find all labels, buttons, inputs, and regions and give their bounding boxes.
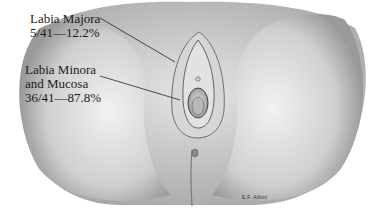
label-labia-minora-stat: 36/41—87.8%	[25, 91, 101, 105]
anus	[192, 149, 198, 157]
label-labia-minora-name-line2: and Mucosa	[25, 77, 101, 91]
anatomical-figure: Labia Majora 5/41—12.2% Labia Minora and…	[0, 0, 374, 208]
label-labia-majora-stat: 5/41—12.2%	[30, 26, 100, 40]
artist-signature: E.F. Albini	[242, 194, 267, 200]
label-labia-minora-name-line1: Labia Minora	[25, 63, 101, 77]
vaginal-introitus	[192, 97, 204, 115]
label-labia-majora-name: Labia Majora	[30, 12, 100, 26]
label-labia-majora: Labia Majora 5/41—12.2%	[30, 12, 100, 40]
label-labia-minora: Labia Minora and Mucosa 36/41—87.8%	[25, 63, 101, 105]
clitoris	[196, 77, 200, 81]
